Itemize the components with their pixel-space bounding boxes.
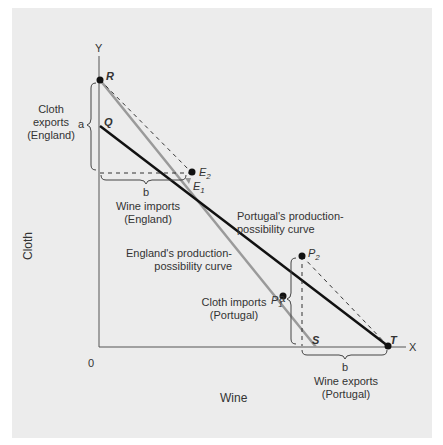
arrow-icon [185, 178, 191, 184]
cloth-exports-england-label: Cloth exports (England) [22, 103, 80, 142]
label-e1: E1 [193, 180, 205, 197]
england-ppc-label: England's production- possibility curve [122, 247, 232, 273]
portugal-trade-line [302, 256, 388, 346]
point-r [97, 77, 104, 84]
label-s: S [312, 334, 319, 347]
brace-a-left [87, 83, 96, 170]
wine-imports-england-label: Wine imports (England) [108, 200, 188, 226]
label-p2: P2 [308, 247, 320, 264]
england-trade-line [100, 80, 192, 173]
cloth-imports-portugal-label: Cloth imports (Portugal) [200, 296, 268, 322]
label-r: R [106, 70, 114, 83]
x-axis-label: X [409, 341, 416, 354]
cloth-axis-title: Cloth [22, 232, 35, 260]
point-e2 [189, 169, 196, 176]
diagram: Y X 0 Cloth Wine R Q S T E2 E1 P1 P2 Clo… [0, 0, 443, 445]
brace-b-top-label: b [143, 186, 149, 199]
wine-axis-title: Wine [220, 392, 247, 405]
brace-a-left-label: a [78, 118, 84, 131]
label-q: Q [104, 116, 113, 129]
label-t: T [390, 334, 397, 347]
wine-exports-portugal-label: Wine exports (Portugal) [308, 375, 384, 401]
portugal-ppc-label: Portugal's production- possibility curve [237, 210, 344, 236]
brace-a-right-label: a [279, 292, 285, 305]
brace-b-bottom [302, 350, 387, 359]
brace-b-bottom-label: b [342, 361, 348, 374]
y-axis-label: Y [95, 42, 102, 55]
point-p2 [299, 253, 306, 260]
origin-label: 0 [88, 357, 94, 370]
